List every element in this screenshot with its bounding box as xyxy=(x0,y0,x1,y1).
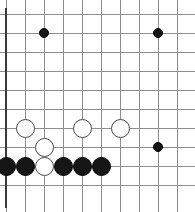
black-stone-c1-r9[interactable] xyxy=(0,157,16,176)
grid-line-horizontal-2 xyxy=(0,33,195,34)
go-board[interactable] xyxy=(0,0,195,212)
white-stone-c3-r9[interactable] xyxy=(35,157,54,176)
grid-line-vertical-5 xyxy=(82,0,83,212)
black-stone-c5-r9[interactable] xyxy=(73,157,92,176)
grid-line-vertical-10 xyxy=(177,0,178,212)
grid-line-vertical-7 xyxy=(120,0,121,212)
grid-line-vertical-6 xyxy=(101,0,102,212)
white-stone-c7-r7[interactable] xyxy=(111,119,130,138)
grid-line-horizontal-5 xyxy=(0,90,195,91)
grid-line-horizontal-10 xyxy=(0,185,195,186)
grid-line-horizontal-3 xyxy=(0,52,195,53)
grid-line-horizontal-8 xyxy=(0,147,195,148)
black-stone-c2-r9[interactable] xyxy=(16,157,35,176)
grid-line-horizontal-4 xyxy=(0,71,195,72)
grid-line-horizontal-1 xyxy=(0,14,195,15)
board-edge-left xyxy=(5,8,7,208)
white-stone-c3-r8[interactable] xyxy=(35,138,54,157)
grid-line-vertical-4 xyxy=(63,0,64,212)
go-board-screenshot xyxy=(0,0,195,212)
black-stone-c4-r9[interactable] xyxy=(54,157,73,176)
grid-line-vertical-2 xyxy=(25,0,26,212)
white-stone-c2-r7[interactable] xyxy=(16,119,35,138)
grid-line-vertical-8 xyxy=(139,0,140,212)
black-stone-c3-r2[interactable] xyxy=(39,28,49,38)
black-stone-c6-r9[interactable] xyxy=(92,157,111,176)
grid-line-horizontal-6 xyxy=(0,109,195,110)
white-stone-c5-r7[interactable] xyxy=(73,119,92,138)
black-stone-c9-r8[interactable] xyxy=(153,142,163,152)
black-stone-c9-r2[interactable] xyxy=(153,28,163,38)
